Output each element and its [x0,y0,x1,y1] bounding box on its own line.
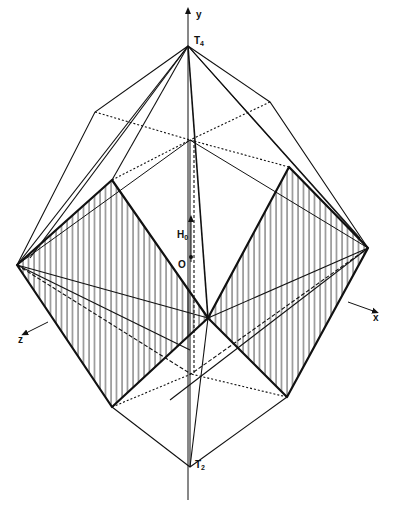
origin-label: O [178,260,186,270]
z-axis-label: z [18,335,23,345]
origin-point [189,255,193,259]
t2-label-sub: 2 [201,464,205,471]
h0-label-sub: 0 [184,234,188,241]
polyhedron-diagram [0,0,395,514]
x-axis-label: x [373,313,379,323]
t4-label: T4 [194,36,204,47]
hatched-faces [17,167,368,407]
y-axis-label: y [196,10,202,20]
z-axis [24,322,48,334]
h0-label: H0 [177,230,188,241]
x-axis [348,302,376,312]
t4-label-sub: 4 [200,40,204,47]
t2-label: T2 [195,460,205,471]
